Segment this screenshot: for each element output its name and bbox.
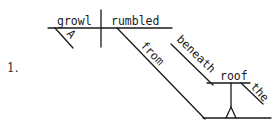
subject-modifier-word: A — [64, 27, 79, 42]
compound-fork — [226, 107, 236, 118]
diagram-canvas: 1. growl rumbled A from beneath roof the — [0, 0, 278, 138]
verb-word: rumbled — [111, 14, 159, 28]
object-word: roof — [220, 69, 248, 83]
item-number: 1. — [7, 61, 18, 75]
sentence-diagram: 1. growl rumbled A from beneath roof the — [0, 0, 278, 138]
object-modifier-word: the — [248, 80, 272, 105]
